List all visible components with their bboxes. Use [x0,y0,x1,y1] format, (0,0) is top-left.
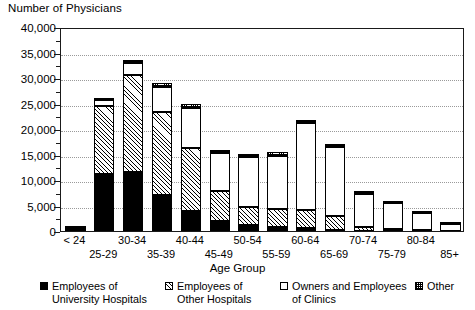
plot-area [60,28,464,232]
x-axis-tick-label: 70-74 [349,234,377,246]
x-axis-tick-label: 35-39 [147,248,175,260]
bar-50-54 [238,153,258,231]
y-axis-title: Number of Physicians [8,2,122,14]
bar-segment [383,203,403,229]
bar-segment [94,106,114,174]
y-axis-tick-label: 10,000 [21,175,56,187]
x-axis-tick-label: 50-54 [233,234,261,246]
y-axis-tick-label: 35,000 [21,48,56,60]
x-axis-tick-label: 85+ [440,248,459,260]
bar-60-64 [296,120,316,231]
bar-30-34 [123,60,143,231]
legend-label: Employees of Other Hospitals [177,280,251,305]
legend-label: Other [427,280,454,293]
bar-segment [65,229,85,231]
x-axis-tick-label: 45-49 [205,248,233,260]
x-axis-tick-label: 55-59 [262,248,290,260]
bar-segment [412,211,432,213]
legend-swatch-icon [165,282,173,290]
x-axis-tick-label: 30-34 [118,234,146,246]
bar-segment [123,63,143,75]
bar-segment [210,221,230,231]
bar-segment [210,153,230,191]
x-axis-tick-label: 25-29 [89,248,117,260]
x-axis-tick-label: < 24 [64,234,86,246]
bar-segment [238,154,258,157]
bar-segment [238,157,258,207]
bar-segment [210,191,230,221]
bar-segment [94,100,114,105]
bar-segment [152,195,172,231]
bar-segment [440,222,460,224]
legend-label: Employees of University Hospitals [52,280,147,305]
bar-75-79 [383,201,403,231]
x-axis-tick-label: 80-84 [407,234,435,246]
bar-segment [325,216,345,230]
y-axis-labels: 05,00010,00015,00020,00025,00030,00035,0… [0,28,56,232]
bar-segment [181,211,201,231]
bar--24 [65,228,85,231]
y-axis-tick-label: 40,000 [21,22,56,34]
legend-swatch-icon [415,282,423,290]
bar-segment [238,225,258,231]
bar-segment [267,152,287,155]
chart-legend: Employees of University HospitalsEmploye… [40,280,460,308]
legend-item[interactable]: Employees of University Hospitals [40,280,147,305]
bar-segment [267,227,287,231]
bar-segment [296,210,316,228]
bar-segment [296,123,316,210]
bar-35-39 [152,83,172,231]
bar-segment [440,224,460,231]
bar-segment [325,147,345,216]
y-axis-tick-label: 5,000 [27,201,56,213]
x-axis-tick-label: 60-64 [291,234,319,246]
bar-segment [65,226,85,228]
bar-segment [354,194,374,227]
y-axis-tick-label: 20,000 [21,124,56,136]
x-axis-tick-label: 75-79 [378,248,406,260]
bar-55-59 [267,152,287,231]
legend-item[interactable]: Other [415,280,454,293]
bar-segment [152,87,172,112]
bar-85+ [440,223,460,231]
legend-label: Owners and Employees of Clinics [292,280,407,305]
bar-segment [123,60,143,64]
bar-segment [267,209,287,228]
bar-segment [123,75,143,171]
bar-segment [238,207,258,226]
bar-segment [325,144,345,147]
bar-segment [94,174,114,231]
bar-segment [354,191,374,194]
bar-segment [152,83,172,87]
legend-item[interactable]: Employees of Other Hospitals [165,280,251,305]
x-axis-tick-label: 40-44 [176,234,204,246]
bar-segment [383,201,403,203]
bar-segment [181,148,201,211]
x-axis-tick-label: 65-69 [320,248,348,260]
bar-segment [412,213,432,230]
bar-segment [123,172,143,231]
bar-segment [296,120,316,123]
bar-40-44 [181,104,201,231]
bar-80-84 [412,211,432,231]
y-axis-tick-label: 30,000 [21,73,56,85]
y-axis-tick-label: 25,000 [21,99,56,111]
bar-segment [296,228,316,231]
bar-segment [152,112,172,196]
legend-item[interactable]: Owners and Employees of Clinics [280,280,407,305]
legend-swatch-icon [40,282,48,290]
bar-segment [181,104,201,108]
x-axis-title: Age Group [0,262,475,274]
bars-layer [61,29,463,231]
chart-figure: Number of Physicians 05,00010,00015,0002… [0,0,475,310]
bar-70-74 [354,191,374,231]
bar-segment [210,150,230,153]
bar-65-69 [325,144,345,231]
bar-25-29 [94,98,114,231]
legend-swatch-icon [280,282,288,290]
bar-segment [267,156,287,209]
bar-segment [354,227,374,231]
bar-segment [181,108,201,148]
y-axis-tick-label: 15,000 [21,150,56,162]
bar-segment [94,98,114,101]
